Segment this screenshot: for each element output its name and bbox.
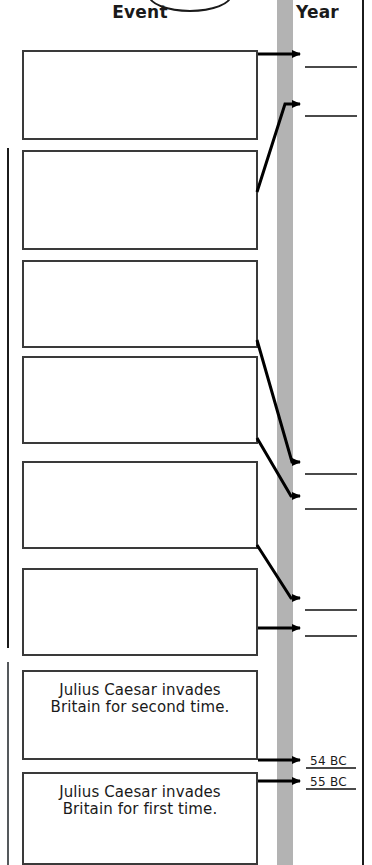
event-box[interactable]: [22, 461, 258, 549]
year-answer-blank[interactable]: [305, 609, 357, 611]
year-label: 55 BC: [310, 775, 347, 789]
year-answer-blank[interactable]: [305, 473, 357, 475]
event-box[interactable]: Julius Caesar invades Britain for second…: [22, 670, 258, 760]
page-border-right: [362, 0, 364, 865]
worksheet-page: Event Year Julius Caesar invades Britain…: [0, 0, 372, 865]
event-box[interactable]: Julius Caesar invades Britain for first …: [22, 772, 258, 865]
year-label: 54 BC: [310, 754, 347, 768]
page-border-left-upper: [7, 148, 9, 648]
year-answer-blank[interactable]: [305, 66, 357, 68]
year-label-underline: [306, 788, 356, 790]
event-box[interactable]: [22, 568, 258, 656]
timeline-bar: [277, 0, 293, 865]
year-answer-blank[interactable]: [305, 635, 357, 637]
event-box-text: Julius Caesar invades Britain for first …: [59, 774, 221, 819]
column-header-year: Year: [296, 2, 360, 22]
event-box[interactable]: [22, 260, 258, 348]
year-answer-blank[interactable]: [305, 115, 357, 117]
year-label-underline: [306, 767, 356, 769]
event-box[interactable]: [22, 150, 258, 250]
year-answer-blank[interactable]: [305, 508, 357, 510]
event-box[interactable]: [22, 356, 258, 444]
event-box-text: Julius Caesar invades Britain for second…: [51, 672, 230, 717]
page-border-left-lower: [7, 662, 9, 865]
column-header-event: Event: [0, 2, 280, 22]
event-box[interactable]: [22, 50, 258, 140]
